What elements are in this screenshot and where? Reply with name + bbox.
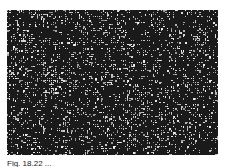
micrograph-figure bbox=[7, 10, 218, 155]
micrograph-image bbox=[7, 10, 218, 155]
figure-caption: Fig. 18.22 ... bbox=[7, 159, 221, 167]
